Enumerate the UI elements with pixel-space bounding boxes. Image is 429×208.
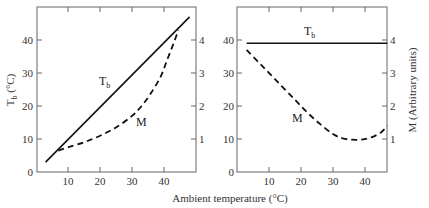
right-y-tick-labels: 40 30 20 10 0 4 3 2 1	[223, 34, 396, 178]
left-panel: 40 30 20 10 0 4 3 2 1	[4, 7, 205, 187]
svg-text:3: 3	[390, 67, 396, 79]
svg-text:3: 3	[199, 67, 205, 79]
svg-text:30: 30	[22, 67, 34, 79]
svg-text:2: 2	[199, 100, 205, 112]
svg-text:10: 10	[22, 133, 34, 145]
svg-text:40: 40	[223, 34, 235, 46]
right-panel: 40 30 20 10 0 4 3 2 1 10 20 30 40 M (Arb…	[223, 7, 419, 187]
left-tb-line	[46, 17, 190, 162]
svg-text:2: 2	[390, 100, 396, 112]
svg-text:40: 40	[22, 34, 34, 46]
left-tb-label: Tb	[99, 74, 110, 90]
left-x-tick-labels: 10 20 30 40	[63, 175, 171, 187]
svg-text:4: 4	[390, 34, 396, 46]
right-tb-label: Tb	[304, 24, 315, 40]
left-y-tick-labels: 40 30 20 10 0	[22, 34, 34, 178]
svg-text:0: 0	[229, 166, 235, 178]
svg-text:1: 1	[199, 133, 205, 145]
svg-text:20: 20	[22, 100, 34, 112]
left-x-ticks	[68, 7, 164, 172]
left-y-ticks	[37, 40, 42, 139]
svg-text:10: 10	[63, 175, 75, 187]
svg-text:20: 20	[296, 175, 308, 187]
left-y-axis-title: Tb (°C)	[4, 73, 19, 106]
x-axis-title: Ambient temperature (°C)	[172, 192, 288, 205]
svg-text:40: 40	[360, 175, 372, 187]
svg-text:30: 30	[127, 175, 139, 187]
right-x-ticks	[269, 7, 365, 172]
svg-text:10: 10	[223, 133, 235, 145]
left-m-label: M	[136, 115, 147, 129]
svg-text:10: 10	[264, 175, 276, 187]
right-x-tick-labels: 10 20 30 40	[264, 175, 372, 187]
left-panel-m-tick-labels: 4 3 2 1	[199, 34, 205, 145]
left-m-curve	[58, 30, 178, 150]
right-y-axis-title: M (Arbitrary units)	[406, 47, 419, 132]
right-m-label: M	[292, 111, 303, 125]
svg-text:40: 40	[159, 175, 171, 187]
right-m-curve	[247, 50, 388, 140]
svg-text:4: 4	[199, 34, 205, 46]
svg-text:20: 20	[95, 175, 107, 187]
left-panel-m-ticks	[191, 40, 196, 139]
svg-text:30: 30	[223, 67, 235, 79]
svg-text:30: 30	[328, 175, 340, 187]
right-y-ticks	[237, 40, 387, 139]
chart-canvas: 40 30 20 10 0 4 3 2 1	[0, 0, 429, 208]
svg-text:20: 20	[223, 100, 235, 112]
svg-text:1: 1	[390, 133, 396, 145]
svg-text:0: 0	[28, 166, 34, 178]
